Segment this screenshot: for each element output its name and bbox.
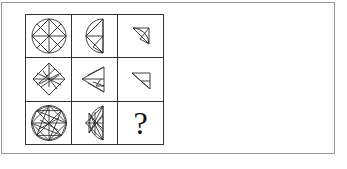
matrix-cell-row3-col1[interactable] [26, 102, 72, 145]
matrix-cell-row2-col3[interactable] [118, 58, 164, 101]
quarter-circle-with-diagonals-icon [121, 16, 161, 56]
missing-cell-question-mark: ? [133, 107, 147, 139]
circle-with-inscribed-diamond-and-cross-icon [29, 16, 69, 56]
matrix-cell-row3-col2[interactable] [72, 102, 118, 145]
matrix-cell-row3-col3[interactable]: ? [118, 102, 164, 145]
puzzle-frame: ? [1, 2, 335, 154]
matrix-cell-row2-col1[interactable] [26, 58, 72, 101]
matrix-cell-row1-col2[interactable] [72, 15, 118, 58]
matrix-cell-row2-col2[interactable] [72, 58, 118, 101]
left-pointing-triangle-with-lines-icon [75, 59, 115, 99]
circle-with-dense-star-lattice-icon [28, 102, 70, 144]
matrix-cell-row1-col1[interactable] [26, 15, 72, 58]
small-right-triangle-icon [121, 59, 161, 99]
diamond-with-internal-lines-icon [29, 59, 69, 99]
left-semicircle-with-triangles-icon [75, 16, 115, 56]
matrix-grid: ? [25, 14, 164, 145]
left-semicircle-with-dense-lattice-icon [74, 102, 116, 144]
matrix-cell-row1-col3[interactable] [118, 15, 164, 58]
